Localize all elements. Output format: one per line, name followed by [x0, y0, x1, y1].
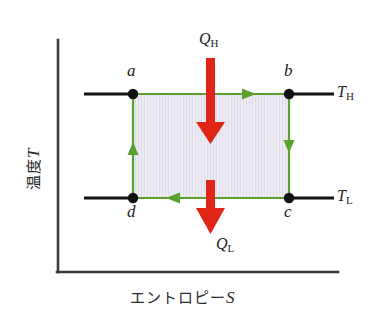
- isotherm-high-label-var: T: [337, 83, 346, 100]
- state-point-a: [128, 89, 138, 99]
- state-label-a: a: [127, 62, 136, 79]
- state-label-c: c: [284, 203, 292, 220]
- x-axis-label-text: エントロピー: [130, 289, 226, 307]
- x-axis-label: エントロピーS: [130, 286, 236, 308]
- heat-flow-label-qh: QH: [199, 31, 219, 47]
- ts-diagram-figure: a b c d TH TL QH QL 温度T エントロピーS: [0, 0, 384, 317]
- isotherm-low-label-var: T: [337, 187, 346, 204]
- heat-flow-label-qh-sub: H: [211, 37, 219, 49]
- state-label-b: b: [284, 62, 293, 79]
- isotherm-low-label-sub: L: [346, 194, 353, 206]
- y-axis-label: 温度T: [22, 148, 44, 190]
- diagram-canvas: [0, 0, 384, 317]
- y-axis-label-var: T: [24, 148, 43, 158]
- isotherm-high-label-sub: H: [346, 90, 354, 102]
- y-axis-label-text: 温度: [25, 158, 43, 190]
- heat-flow-label-ql-var: Q: [216, 235, 228, 252]
- isotherm-high-label: TH: [337, 84, 354, 100]
- state-point-b: [284, 89, 294, 99]
- state-label-d: d: [127, 203, 136, 220]
- heat-flow-label-qh-var: Q: [199, 30, 211, 47]
- x-axis-label-var: S: [226, 288, 236, 307]
- heat-flow-label-ql-sub: L: [228, 242, 235, 254]
- isotherm-low-label: TL: [337, 188, 353, 204]
- heat-flow-label-ql: QL: [216, 236, 234, 252]
